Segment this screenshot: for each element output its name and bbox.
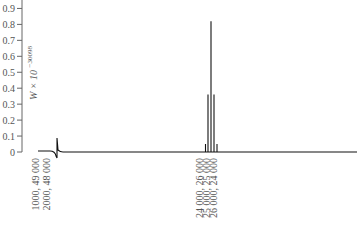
data-series-w — [38, 21, 357, 158]
y-tick-label: 0 — [10, 147, 15, 158]
y-tick-label: 0.4 — [3, 83, 16, 94]
svg-text:W × 10 −30098: W × 10 −30098 — [26, 45, 39, 100]
y-tick-label: 0.1 — [3, 131, 16, 142]
y-tick-label: 0.6 — [3, 51, 16, 62]
y-axis-label-exponent: −30098 — [26, 45, 34, 67]
x-tick-label: 2000, 48 000 — [41, 158, 52, 211]
x-tick-label: 1000, 49 000 — [30, 158, 41, 211]
x-tick-label: 26 000, 24 000 — [208, 158, 219, 218]
series-line — [38, 138, 357, 158]
y-tick-label: 0.3 — [3, 99, 16, 110]
x-axis-tick-labels: 1000, 49 0002000, 48 00024 000, 26 00025… — [30, 158, 219, 218]
y-tick-label: 0.5 — [3, 67, 16, 78]
spike-cluster — [206, 21, 218, 152]
y-axis-ticks: 00.10.20.30.40.50.60.70.80.9 — [3, 3, 23, 158]
y-tick-label: 0.9 — [3, 3, 16, 14]
chart-plot-area: 00.10.20.30.40.50.60.70.80.9 W × 10 −300… — [0, 0, 357, 227]
y-axis-label: W × 10 −30098 — [26, 45, 39, 100]
y-tick-label: 0.8 — [3, 19, 16, 30]
y-tick-label: 0.2 — [3, 115, 16, 126]
y-axis-label-text: W × 10 — [28, 70, 39, 100]
y-tick-label: 0.7 — [3, 35, 16, 46]
